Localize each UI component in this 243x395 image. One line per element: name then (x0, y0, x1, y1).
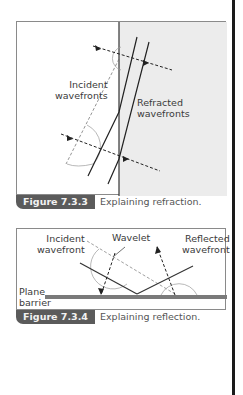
plane-barrier-label: Plane barrier (19, 286, 51, 308)
reflected-wavefront-label: Reflected wavefront (182, 233, 230, 255)
figure-number-tab: Figure 7.3.3 (16, 195, 95, 209)
figure-caption-text: Explaining reflection. (100, 310, 200, 324)
incident-wavefront-label: Incident wavefront (37, 233, 85, 255)
label-line: barrier (19, 297, 51, 308)
figure-caption-refraction: Figure 7.3.3 Explaining refraction. (16, 195, 226, 209)
label-line: Refracted (137, 97, 190, 108)
label-line: Incident (37, 233, 85, 244)
label-line: Reflected (182, 233, 230, 244)
label-line: wavefronts (137, 108, 190, 119)
refraction-diagram (17, 22, 227, 196)
label-line: wavefronts (55, 90, 108, 101)
figure-number-tab: Figure 7.3.4 (16, 310, 95, 324)
label-line: Plane (19, 286, 51, 297)
page-side-rule (232, 0, 235, 395)
label-line: wavefront (37, 244, 85, 255)
reflection-figure: Incident wavefront Wavelet Reflected wav… (16, 228, 226, 310)
figure-caption-reflection: Figure 7.3.4 Explaining reflection. (16, 310, 226, 324)
label-line: Incident (55, 79, 108, 90)
label-line: wavefront (182, 244, 230, 255)
figure-caption-text: Explaining refraction. (100, 195, 202, 209)
refraction-figure: Incident wavefronts Refracted wavefronts (16, 21, 226, 195)
refracted-wavefronts-label: Refracted wavefronts (137, 97, 190, 119)
wavelet-label: Wavelet (112, 232, 150, 243)
incident-wavefronts-label: Incident wavefronts (55, 79, 108, 101)
